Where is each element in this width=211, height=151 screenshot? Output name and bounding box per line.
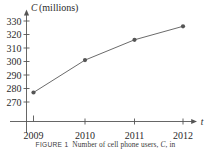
x-tick-label-2010: 2010 <box>75 130 95 141</box>
data-point-2012 <box>181 24 185 28</box>
y-tick-label-290: 290 <box>7 70 22 81</box>
figure-caption: FIGURE 1 Number of cell phone users, C, … <box>0 140 211 149</box>
data-point-2011 <box>132 38 136 42</box>
y-tick-label-300: 300 <box>7 56 22 67</box>
x-axis-title: t <box>201 117 204 127</box>
data-point-2009 <box>31 90 35 94</box>
plot-background <box>0 0 211 151</box>
y-tick-label-310: 310 <box>7 43 22 54</box>
figure-caption-text-1: Number of cell phone users, <box>72 140 158 149</box>
x-tick-label-2012: 2012 <box>173 130 193 141</box>
y-tick-label-280: 280 <box>7 83 22 94</box>
y-axis-tick-labels: 330 320 310 300 290 280 270 <box>7 16 22 108</box>
figure-container: 330 320 310 300 290 280 270 2009 2010 20… <box>0 0 211 151</box>
x-tick-label-2011: 2011 <box>125 130 145 141</box>
y-axis-title: C (millions) <box>31 2 78 14</box>
line-chart: 330 320 310 300 290 280 270 2009 2010 20… <box>0 0 211 151</box>
y-tick-label-270: 270 <box>7 97 22 108</box>
figure-caption-lead: FIGURE 1 <box>36 141 69 148</box>
data-point-2010 <box>83 58 87 62</box>
x-tick-label-2009: 2009 <box>24 130 44 141</box>
y-axis-title-units: (millions) <box>39 2 78 14</box>
y-tick-label-330: 330 <box>7 16 22 27</box>
figure-caption-text-2: , in <box>166 140 176 149</box>
y-axis-title-variable: C <box>31 3 38 13</box>
y-tick-label-320: 320 <box>7 29 22 40</box>
